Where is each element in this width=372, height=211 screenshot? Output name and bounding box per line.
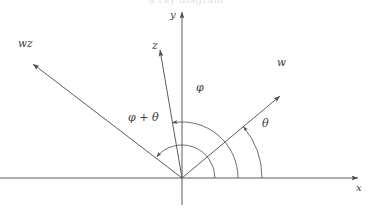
arc-theta [243, 127, 262, 178]
angle-diagram-figure: a ray diagram x y wz z w [0, 0, 372, 211]
arc-phi-plus-theta [157, 145, 215, 178]
ray-label-z: z [152, 40, 158, 51]
x-axis-label: x [356, 183, 362, 193]
ray-label-w: w [277, 57, 286, 68]
y-axis-label: y [170, 10, 176, 20]
ray-z [160, 50, 182, 178]
angle-label-phi-plus-theta: φ + θ [128, 112, 159, 123]
diagram-canvas [0, 0, 372, 211]
angle-label-phi: φ [196, 82, 204, 93]
ray-wz [33, 64, 182, 178]
ray-w [182, 96, 280, 178]
ray-label-wz: wz [18, 38, 33, 49]
angle-label-theta: θ [262, 118, 269, 129]
